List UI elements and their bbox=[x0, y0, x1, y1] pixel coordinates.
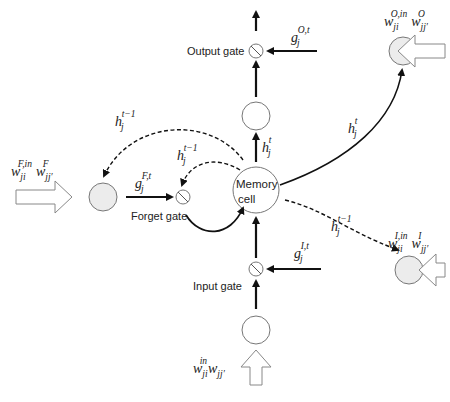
input-gate-signal-label: gjI,t bbox=[294, 241, 309, 264]
cell-output-node bbox=[242, 102, 270, 130]
input-gate-label: Input gate bbox=[193, 280, 242, 292]
cell-input-node bbox=[242, 316, 270, 344]
forget-gate-signal-label: gjF,t bbox=[135, 171, 152, 194]
output-gate-signal-label: gjO,t bbox=[291, 25, 310, 48]
memory-cell-label-2: cell bbox=[238, 193, 255, 205]
input-weight-label: wjiinwjj′ bbox=[193, 356, 226, 379]
forget-to-memory-curve bbox=[186, 208, 243, 231]
output-gate-label: Output gate bbox=[187, 45, 245, 57]
h-prev-inner-label: hjt−1 bbox=[177, 143, 197, 166]
memory-cell-label-1: Memory bbox=[236, 178, 278, 190]
h-prev-outer-label: hjt−1 bbox=[115, 109, 135, 132]
forget-weight-arrow bbox=[16, 181, 72, 213]
recurrent-to-forget-gate-curve bbox=[182, 162, 240, 185]
memory-cell-node bbox=[233, 167, 279, 213]
forget-gate-node bbox=[176, 190, 190, 204]
h-t-label: hjt bbox=[262, 135, 272, 158]
lstm-diagram: Output gate gjO,t wjiO,inwjj′O hjt Memor… bbox=[0, 0, 450, 402]
recurrent-to-forget-input-curve bbox=[104, 130, 243, 176]
output-gate-node bbox=[249, 44, 263, 58]
output-weight-label: wjiO,inwjj′O bbox=[384, 9, 429, 32]
input-gate-weight-label: wjiI,inwjj′I bbox=[388, 231, 429, 254]
forget-weight-label: wjiF,inwjj′F bbox=[11, 159, 54, 182]
input-weight-arrow bbox=[241, 350, 271, 385]
h-prev-input-label: hjt−1 bbox=[331, 214, 351, 237]
memory-to-output-gate-curve bbox=[280, 70, 402, 185]
input-gate-node bbox=[249, 262, 263, 276]
forget-gate-label: Forget gate bbox=[131, 210, 187, 222]
input-gate-weight-arrow bbox=[419, 254, 445, 286]
forget-gate-input-node bbox=[89, 183, 117, 211]
h-t-curve-label: hjt bbox=[348, 116, 358, 139]
